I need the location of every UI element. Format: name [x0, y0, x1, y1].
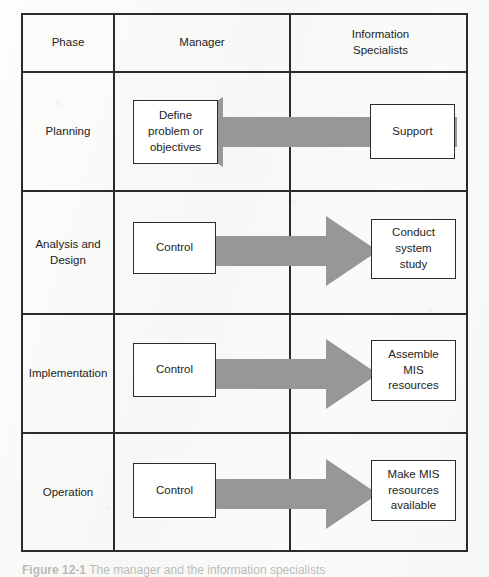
phase-line-1: Analysis and — [35, 238, 100, 250]
node-label-make-mis-resources-available: Make MIS resources available — [388, 467, 440, 515]
node-line-2: resources — [388, 484, 439, 496]
figure-caption-number: Figure 12-1 — [22, 563, 86, 577]
phase-line-2: Design — [50, 254, 86, 266]
figure-caption-text: The manager and the information speciali… — [89, 563, 325, 577]
node-box-control-implementation: Control — [133, 343, 216, 397]
phase-label-operation: Operation — [23, 434, 113, 552]
node-label-control: Control — [156, 362, 193, 378]
header-label-information-specialists: Information Specialists — [352, 27, 410, 58]
node-line-2: problem or — [148, 125, 203, 137]
node-line-1: Define — [159, 109, 192, 121]
phase-label-wrapper: Analysis and Design — [35, 237, 100, 268]
node-box-make-mis-resources-available: Make MIS resources available — [371, 460, 456, 521]
node-label-control: Control — [156, 483, 193, 499]
node-box-conduct-system-study: Conduct system study — [371, 219, 456, 279]
node-line-1: Conduct — [392, 226, 435, 238]
node-box-define-problem-or-objectives: Define problem or objectives — [133, 100, 218, 164]
table-row: Planning Define problem or objectives Su… — [23, 73, 466, 190]
figure-caption: Figure 12-1 The manager and the informat… — [22, 563, 462, 577]
arrow-right-control-to-conduct-system-study — [205, 214, 378, 288]
header-label-phase: Phase — [52, 35, 85, 51]
table-row: Implementation Control Assemble MIS reso… — [23, 315, 466, 432]
phase-label-planning: Planning — [23, 73, 113, 190]
phase-label-analysis-and-design: Analysis and Design — [23, 192, 113, 313]
node-line-2: MIS — [403, 364, 423, 376]
node-label-conduct-system-study: Conduct system study — [392, 225, 435, 273]
table-row: Operation Control Make MIS resources ava… — [23, 434, 466, 552]
table-row: Analysis and Design Control Conduct syst… — [23, 192, 466, 313]
node-box-control-operation: Control — [133, 463, 216, 518]
arrow-right-control-to-make-mis-resources-available — [205, 457, 378, 531]
node-label-support: Support — [392, 124, 432, 140]
header-label-information-specialists-line2: Specialists — [353, 44, 408, 56]
node-box-support: Support — [370, 104, 455, 159]
node-line-2: system — [395, 242, 431, 254]
node-line-3: objectives — [150, 141, 201, 153]
node-box-control-analysis: Control — [133, 222, 216, 274]
header-cell-phase: Phase — [23, 15, 113, 71]
node-label-assemble-mis-resources: Assemble MIS resources — [388, 347, 439, 395]
header-cell-information-specialists: Information Specialists — [291, 15, 470, 71]
node-box-assemble-mis-resources: Assemble MIS resources — [371, 340, 456, 401]
header-label-manager: Manager — [179, 35, 224, 51]
node-line-1: Make MIS — [388, 468, 440, 480]
node-line-3: available — [391, 499, 436, 511]
header-cell-manager: Manager — [115, 15, 289, 71]
node-line-1: Assemble — [388, 348, 439, 360]
phase-label-implementation: Implementation — [23, 315, 113, 432]
node-label-control: Control — [156, 240, 193, 256]
header-label-information-specialists-line1: Information — [352, 28, 410, 40]
arrow-right-control-to-assemble-mis-resources — [205, 337, 378, 411]
node-line-3: study — [400, 258, 428, 270]
node-line-3: resources — [388, 379, 439, 391]
manager-information-specialists-matrix: Phase Manager Information Specialists Pl… — [21, 13, 468, 552]
node-label-define-problem-or-objectives: Define problem or objectives — [148, 108, 203, 156]
